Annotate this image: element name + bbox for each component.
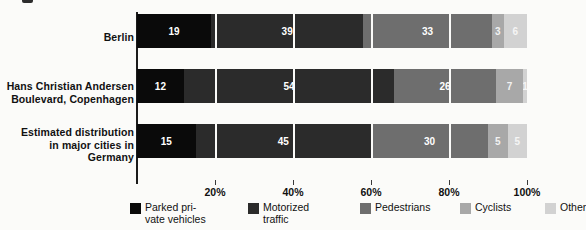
legend-swatch-icon bbox=[360, 203, 371, 214]
bar-value-label: 6 bbox=[512, 26, 518, 37]
bar-segment: 6 bbox=[504, 14, 527, 48]
bar-value-label: 33 bbox=[422, 26, 433, 37]
x-axis-tick-label: 20% bbox=[204, 186, 225, 198]
x-axis-tick-label: 40% bbox=[282, 186, 303, 198]
legend-label: Cyclists bbox=[475, 202, 511, 214]
legend-item[interactable]: Cyclists bbox=[460, 202, 511, 214]
bar-value-label: 19 bbox=[168, 26, 179, 37]
legend-swatch-icon bbox=[248, 203, 259, 214]
bar-row: 12542671 bbox=[137, 69, 527, 103]
bar-segment: 26 bbox=[394, 69, 495, 103]
bar-value-label: 39 bbox=[282, 26, 293, 37]
bar-segment: 39 bbox=[211, 14, 363, 48]
bar-segment: 7 bbox=[496, 69, 523, 103]
bar-segment: 5 bbox=[488, 124, 508, 158]
gridline bbox=[449, 14, 451, 180]
bar-segment: 15 bbox=[137, 124, 196, 158]
x-axis-tick bbox=[293, 180, 294, 185]
bar-value-label: 30 bbox=[424, 136, 435, 147]
bar-row: 15453055 bbox=[137, 124, 527, 158]
bar-segment: 19 bbox=[137, 14, 211, 48]
x-axis-tick-label: 80% bbox=[438, 186, 459, 198]
x-axis-tick bbox=[371, 180, 372, 185]
bar-segment: 5 bbox=[508, 124, 528, 158]
gridline bbox=[371, 14, 373, 180]
bar-row: 19393336 bbox=[137, 14, 527, 48]
bar-value-label: 5 bbox=[495, 136, 501, 147]
bar-value-label: 45 bbox=[278, 136, 289, 147]
bar-value-label: 12 bbox=[155, 81, 166, 92]
legend-item[interactable]: Motorized traffic bbox=[248, 202, 309, 225]
gridline bbox=[215, 14, 217, 180]
legend-item[interactable]: Other bbox=[545, 202, 586, 214]
gridline bbox=[293, 14, 295, 180]
bar-segment: 3 bbox=[492, 14, 504, 48]
bar-segment: 30 bbox=[371, 124, 488, 158]
x-axis-tick bbox=[215, 180, 216, 185]
legend-label: Parked pri- vate vehicles bbox=[145, 202, 206, 225]
x-axis-tick-label: 60% bbox=[360, 186, 381, 198]
bar-value-label: 15 bbox=[161, 136, 172, 147]
category-labels-column: BerlinHans Christian AndersenBoulevard, … bbox=[0, 0, 134, 180]
legend-label: Motorized traffic bbox=[263, 202, 309, 225]
bar-segment: 33 bbox=[363, 14, 492, 48]
bar-segment: 45 bbox=[196, 124, 372, 158]
legend-label: Other bbox=[560, 202, 586, 214]
chart-legend: Parked pri- vate vehiclesMotorized traff… bbox=[130, 202, 548, 230]
x-axis-tick bbox=[449, 180, 450, 185]
legend-swatch-icon bbox=[545, 203, 556, 214]
bar-value-label: 3 bbox=[495, 26, 501, 37]
legend-item[interactable]: Parked pri- vate vehicles bbox=[130, 202, 206, 225]
category-label: Berlin bbox=[0, 31, 134, 44]
bar-segment: 12 bbox=[137, 69, 184, 103]
legend-swatch-icon bbox=[460, 203, 471, 214]
gridline bbox=[527, 14, 529, 180]
legend-swatch-icon bbox=[130, 203, 141, 214]
x-axis-tick-label: 100% bbox=[514, 186, 541, 198]
bar-value-label: 7 bbox=[507, 81, 513, 92]
bar-value-label: 5 bbox=[514, 136, 520, 147]
category-label: Estimated distributionin major cities in… bbox=[0, 126, 134, 164]
plot-area: 19393336125426711545305520%40%60%80%100% bbox=[137, 14, 527, 180]
category-label: Hans Christian AndersenBoulevard, Copenh… bbox=[0, 80, 134, 105]
legend-label: Pedestrians bbox=[375, 202, 430, 214]
x-axis-tick bbox=[527, 180, 528, 185]
legend-item[interactable]: Pedestrians bbox=[360, 202, 430, 214]
